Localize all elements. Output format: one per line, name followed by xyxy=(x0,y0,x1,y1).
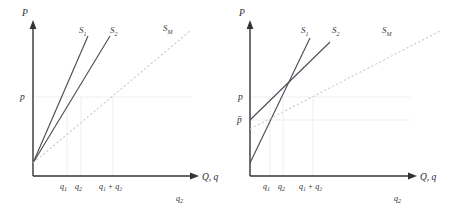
curve-s1-left xyxy=(33,36,88,163)
x-axis-label-left: Q, q xyxy=(202,172,219,182)
price-label-p-right: p xyxy=(237,92,243,102)
x-extra-label-q2-left: q2 xyxy=(176,194,183,204)
curve-label-s2-left: S2 xyxy=(110,25,118,37)
axes-left xyxy=(30,20,199,179)
curve-label-sm-right: SM xyxy=(382,25,393,37)
x-tick-label-q1q2-right: q₁ + q₂ xyxy=(299,182,322,191)
figure-root: P Q, q p S1 S2 SM q1 q2 q₁ + q₂ xyxy=(0,0,451,210)
curve-s2-left xyxy=(33,36,110,163)
chart-panel-left: P Q, q p S1 S2 SM q1 q2 q₁ + q₂ xyxy=(0,0,226,210)
axes-right xyxy=(247,20,417,179)
x-tick-label-q2-right: q2 xyxy=(278,182,285,192)
y-axis-label-right: P xyxy=(238,8,245,18)
curve-sm-right xyxy=(250,31,440,129)
curve-s1-right xyxy=(250,38,310,163)
y-axis-label-left: P xyxy=(21,8,28,18)
x-axis-label-right: Q, q xyxy=(420,172,437,182)
x-tick-label-q1-right: q1 xyxy=(263,182,270,192)
gridlines-right xyxy=(250,97,410,176)
curve-label-s2-right: S2 xyxy=(332,25,340,37)
x-tick-label-q2-left: q2 xyxy=(75,182,82,192)
price-label-p-left: p xyxy=(19,92,25,102)
x-extra-label-q2-right: q2 xyxy=(394,194,401,204)
curve-label-s1-left: S1 xyxy=(79,25,87,37)
curve-label-sm-left: SM xyxy=(163,23,174,35)
chart-panel-right: P Q, q p p̄ S1 S2 SM q1 q2 q₁ + q₂ xyxy=(225,0,451,210)
price-label-pbar-right: p̄ xyxy=(236,115,242,125)
x-tick-label-q1q2-left: q₁ + q₂ xyxy=(99,182,122,191)
curve-label-s1-right: S1 xyxy=(301,25,309,37)
x-tick-label-q1-left: q1 xyxy=(60,182,67,192)
